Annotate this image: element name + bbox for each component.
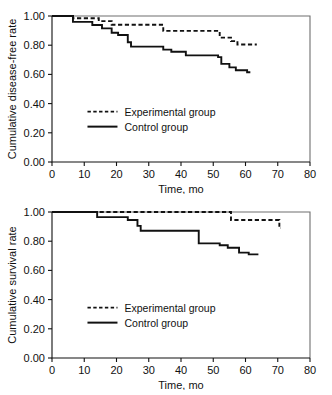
x-tick-label: 50 [207,168,219,180]
series-control-curve [52,16,250,72]
x-tick-label: 10 [78,168,90,180]
y-tick-label: 0.80 [24,235,45,247]
x-tick-label: 70 [272,364,284,376]
x-tick-label: 80 [304,168,316,180]
x-tick-label: 20 [110,364,122,376]
x-tick-label: 80 [304,364,316,376]
plot-axes [52,16,310,162]
plot-frame [52,16,310,162]
plot-axes [52,212,310,358]
x-tick-label: 60 [239,364,251,376]
y-tick-label: 0.60 [24,264,45,276]
plot-frame [52,212,310,358]
y-tick-label: 0.80 [24,39,45,51]
chart-panel-disease-free: 0.000.200.400.600.801.000102030405060708… [0,2,332,194]
y-tick-label: 0.00 [24,156,45,168]
chart-panel-survival: 0.000.200.400.600.801.000102030405060708… [0,198,332,390]
y-tick-label: 0.00 [24,352,45,364]
y-tick-label: 0.40 [24,98,45,110]
y-tick-label: 0.40 [24,294,45,306]
x-tick-label: 0 [49,364,55,376]
y-tick-label: 1.00 [24,206,45,218]
y-axis-title: Cumulative disease-free rate [6,19,18,160]
x-tick-label: 70 [272,168,284,180]
x-tick-label: 50 [207,364,219,376]
x-tick-label: 20 [110,168,122,180]
legend-label-control: Control group [124,121,188,133]
legend-label-experimental: Experimental group [124,302,215,314]
series-experimental-curve [52,212,281,228]
series-control-curve [52,212,258,254]
legend-label-experimental: Experimental group [124,106,215,118]
y-tick-label: 0.20 [24,323,45,335]
x-tick-label: 10 [78,364,90,376]
y-tick-label: 1.00 [24,10,45,22]
x-tick-label: 0 [49,168,55,180]
series-experimental-curve [52,16,257,44]
x-tick-label: 40 [175,364,187,376]
x-axis-title: Time, mo [158,183,203,194]
x-tick-label: 30 [143,168,155,180]
legend-label-control: Control group [124,317,188,329]
x-tick-label: 30 [143,364,155,376]
y-tick-label: 0.20 [24,127,45,139]
kaplan-meier-figure: 0.000.200.400.600.801.000102030405060708… [0,0,332,395]
x-axis-title: Time, mo [158,379,203,390]
y-axis-title: Cumulative survival rate [6,226,18,343]
x-tick-label: 40 [175,168,187,180]
y-tick-label: 0.60 [24,68,45,80]
x-tick-label: 60 [239,168,251,180]
